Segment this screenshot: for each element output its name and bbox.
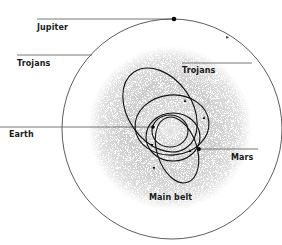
label-earth: Earth [9,130,34,139]
earth-dot [151,125,155,129]
label-jupiter: Jupiter [37,23,68,32]
jupiter-dot [172,17,177,22]
jupiter-orbit-arrow-icon [226,36,229,39]
label-mars: Mars [231,153,253,162]
mars-dot [197,147,201,151]
label-trojans-right: Trojans [182,66,215,75]
orbit-diagram [0,0,282,245]
label-main-belt: Main belt [149,193,192,202]
label-trojans-left: Trojans [17,59,50,68]
sun-glow [161,122,179,140]
